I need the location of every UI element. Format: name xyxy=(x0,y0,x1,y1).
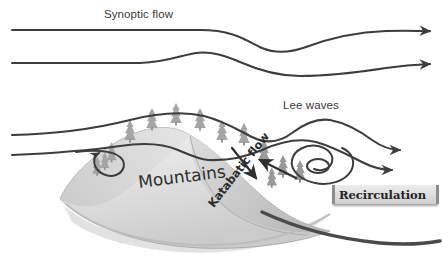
label-lee-waves: Lee waves xyxy=(283,99,339,111)
recirculation-callout: Recirculation xyxy=(332,185,433,204)
label-recirculation: Recirculation xyxy=(332,185,433,204)
synoptic-streamline-1 xyxy=(12,30,430,52)
synoptic-streamline-2 xyxy=(12,53,430,76)
label-synoptic-flow: Synoptic flow xyxy=(104,8,173,20)
mountain-massif xyxy=(60,127,330,252)
ridge-streamline-3 xyxy=(12,113,400,150)
diagram-svg xyxy=(0,0,442,271)
diagram-canvas: Synoptic flow Lee waves Mountains Kataba… xyxy=(0,0,442,271)
return-flow-arrow xyxy=(260,160,296,178)
